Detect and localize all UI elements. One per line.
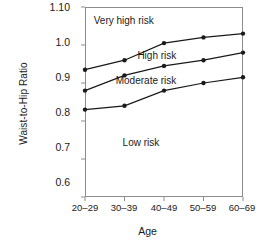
data-point bbox=[122, 58, 126, 62]
data-point bbox=[201, 58, 205, 62]
data-point bbox=[83, 107, 87, 111]
region-label-low-risk: Low risk bbox=[123, 137, 160, 148]
data-point bbox=[201, 81, 205, 85]
data-point bbox=[83, 88, 87, 92]
data-point bbox=[241, 50, 245, 54]
chart-figure: Waist-to-Hip Ratio 1.10 1.0 0.9 0.8 0.7 … bbox=[0, 0, 263, 249]
data-point bbox=[83, 68, 87, 72]
data-point bbox=[201, 35, 205, 39]
data-point bbox=[162, 64, 166, 68]
data-point bbox=[122, 104, 126, 108]
chart-canvas bbox=[0, 0, 263, 249]
data-point bbox=[241, 31, 245, 35]
data-point bbox=[162, 88, 166, 92]
region-label-high-risk: High risk bbox=[137, 50, 176, 61]
data-point bbox=[162, 41, 166, 45]
region-label-very-high-risk: Very high risk bbox=[94, 15, 154, 26]
data-point bbox=[241, 75, 245, 79]
region-label-moderate-risk: Moderate risk bbox=[116, 75, 177, 86]
